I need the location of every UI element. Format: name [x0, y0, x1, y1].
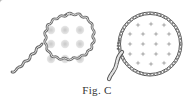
rickrack-tail — [12, 44, 42, 72]
rickrack-circle — [12, 13, 94, 72]
figure-caption: Fig. C — [0, 84, 194, 96]
